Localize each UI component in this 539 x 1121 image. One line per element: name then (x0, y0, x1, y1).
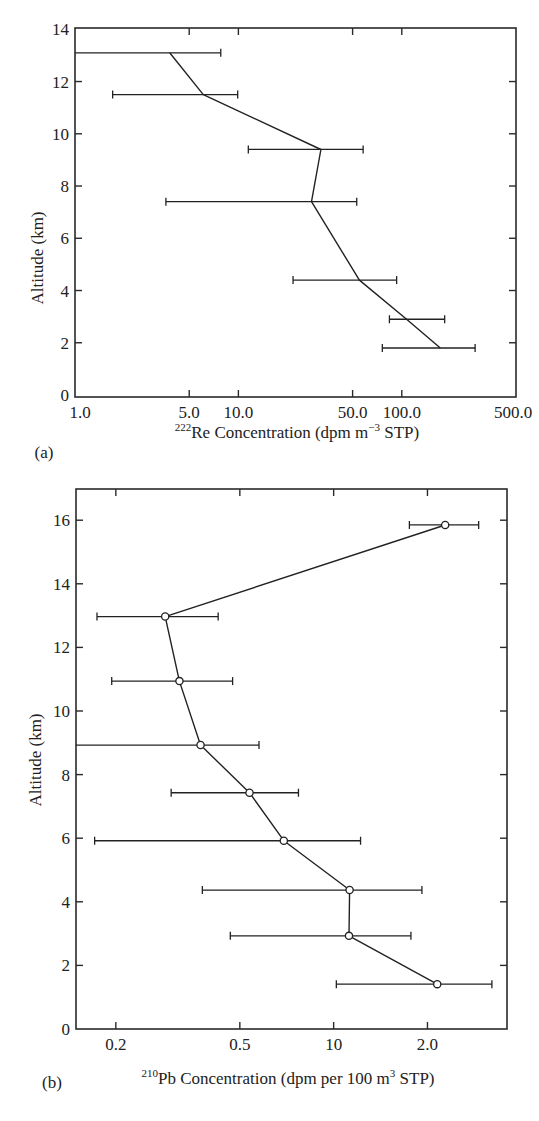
panel-b-x-label-tail: STP) (395, 1069, 434, 1088)
y-tick-label: 10 (52, 125, 69, 144)
y-tick-label: 0 (62, 1020, 71, 1039)
y-tick-label: 12 (53, 638, 70, 657)
data-point-marker (176, 678, 183, 685)
x-tick-label: 1.0 (69, 403, 90, 422)
panel-b-profile-line (165, 525, 445, 984)
panel-b-ticks (76, 489, 507, 1029)
x-tick-label: 100.0 (383, 403, 421, 422)
panel-a-x-label-exponent: −3 (368, 421, 380, 433)
panel-a-y-axis-label: Altitude (km) (28, 211, 47, 304)
y-tick-label: 6 (61, 229, 70, 248)
y-tick-label: 2 (61, 334, 70, 353)
data-point-marker (442, 521, 449, 528)
panel-a-tick-labels: 024681012141.05.010.050.0100.0500.0 (52, 20, 532, 422)
panel-a-label: (a) (35, 443, 54, 462)
data-point-marker (280, 837, 287, 844)
y-tick-label: 6 (62, 829, 71, 848)
panel-b-data-markers (162, 521, 449, 987)
data-point-marker (346, 886, 353, 893)
y-tick-label: 16 (53, 511, 70, 530)
panel-b-tick-labels: 02468101214160.20.5102.0 (53, 511, 438, 1054)
panel-b-error-bars (76, 521, 492, 988)
y-tick-label: 14 (52, 20, 70, 39)
x-tick-label: 10.0 (224, 403, 254, 422)
figure: 024681012141.05.010.050.0100.0500.0 Alti… (0, 0, 539, 1121)
data-point-marker (162, 613, 169, 620)
panel-a-x-axis-label: 222Re Concentration (dpm m−3 STP) (175, 421, 420, 442)
y-tick-label: 12 (52, 73, 69, 92)
y-tick-label: 4 (61, 282, 70, 301)
data-point-marker (434, 981, 441, 988)
y-tick-label: 14 (53, 575, 71, 594)
x-tick-label: 50.0 (338, 403, 368, 422)
panel-a-plot-frame (75, 28, 516, 397)
x-tick-label: 5.0 (179, 403, 200, 422)
x-tick-label: 500.0 (494, 403, 532, 422)
panel-a-chart: 024681012141.05.010.050.0100.0500.0 Alti… (28, 20, 532, 462)
panel-b-plot-frame (76, 489, 507, 1029)
y-tick-label: 0 (61, 386, 70, 405)
panel-a-x-label-tail: STP) (380, 423, 419, 442)
panel-a-error-bars (75, 49, 475, 352)
panel-a-x-label-isotope-mass: 222 (175, 421, 192, 433)
panel-b-y-axis-label: Altitude (km) (26, 713, 45, 806)
y-tick-label: 8 (61, 177, 70, 196)
y-tick-label: 10 (53, 702, 70, 721)
panel-a-ticks (75, 28, 516, 397)
x-tick-label: 0.5 (229, 1035, 250, 1054)
y-tick-label: 2 (62, 956, 71, 975)
panel-b-x-axis-label: 210Pb Concentration (dpm per 100 m3 STP) (141, 1067, 434, 1088)
y-tick-label: 8 (62, 766, 71, 785)
x-tick-label: 10 (325, 1035, 342, 1054)
panel-b-x-label-isotope-mass: 210 (141, 1067, 158, 1079)
y-tick-label: 4 (62, 893, 71, 912)
panel-b-label: (b) (42, 1073, 62, 1092)
x-tick-label: 2.0 (417, 1035, 438, 1054)
panel-b-x-label-main: Pb Concentration (dpm per 100 m (158, 1069, 390, 1088)
figure-canvas: 024681012141.05.010.050.0100.0500.0 Alti… (0, 0, 539, 1121)
x-tick-label: 0.2 (105, 1035, 126, 1054)
panel-a-profile-line (170, 53, 441, 348)
data-point-marker (197, 741, 204, 748)
data-point-marker (345, 932, 352, 939)
panel-b-chart: 02468101214160.20.5102.0 Altitude (km) 2… (26, 489, 507, 1092)
panel-a-x-label-main: Re Concentration (dpm m (191, 423, 368, 442)
data-point-marker (246, 789, 253, 796)
